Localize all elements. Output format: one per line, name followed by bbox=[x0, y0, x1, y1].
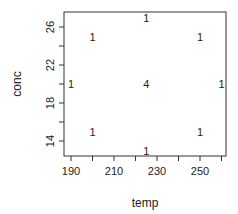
point-label: 1 bbox=[218, 78, 224, 90]
point-label: 1 bbox=[143, 12, 149, 24]
point-label: 4 bbox=[143, 78, 149, 90]
x-tick-label: 190 bbox=[62, 165, 80, 177]
data-points: 111141111 bbox=[68, 12, 225, 157]
y-tick-label: 26 bbox=[44, 21, 56, 33]
point-label: 1 bbox=[68, 78, 74, 90]
point-label: 1 bbox=[89, 126, 95, 138]
x-axis: 190210230250 bbox=[62, 156, 222, 177]
y-tick-label: 14 bbox=[44, 135, 56, 147]
y-tick-label: 22 bbox=[44, 59, 56, 71]
y-tick-label: 18 bbox=[44, 97, 56, 109]
scatter-plot: 190210230250 14182226 111141111 temp con… bbox=[0, 0, 238, 214]
point-label: 1 bbox=[143, 145, 149, 157]
point-label: 1 bbox=[89, 31, 95, 43]
x-tick-label: 250 bbox=[191, 165, 209, 177]
x-axis-label: temp bbox=[132, 196, 159, 210]
x-tick-label: 230 bbox=[148, 165, 166, 177]
y-axis: 14182226 bbox=[44, 21, 64, 147]
x-tick-label: 210 bbox=[105, 165, 123, 177]
point-label: 1 bbox=[197, 126, 203, 138]
point-label: 1 bbox=[197, 31, 203, 43]
y-axis-label: conc bbox=[10, 71, 24, 96]
